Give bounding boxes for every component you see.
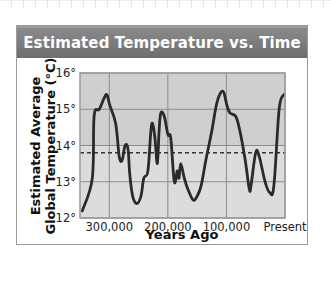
- x-tick-label: Present: [263, 220, 307, 234]
- y-tick-label: 16°: [56, 66, 76, 80]
- y-axis-title-line-1: Estimated Average: [28, 76, 43, 215]
- y-axis-title-line-2: Global Temperature (°C): [43, 57, 58, 234]
- y-tick-label: 13°: [56, 175, 76, 189]
- y-tick-label: 15°: [56, 102, 76, 116]
- y-tick-label: 14°: [56, 139, 76, 153]
- y-axis-title: Estimated Average Global Temperature (°C…: [28, 57, 58, 234]
- y-tick-label: 12°: [56, 211, 76, 225]
- x-tick-label: 300,000: [86, 220, 134, 234]
- chart-svg: 12°13°14°15°16° 300,000200,000100,000Pre…: [0, 0, 331, 281]
- x-axis-title: Years Ago: [145, 227, 219, 242]
- y-tick-labels: 12°13°14°15°16°: [56, 66, 76, 225]
